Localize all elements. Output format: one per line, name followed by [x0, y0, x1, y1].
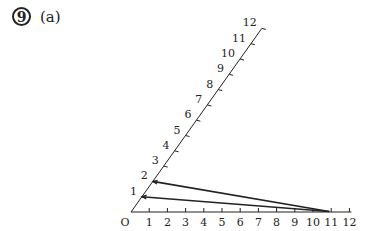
- horizontal-tick-label: 1: [146, 216, 153, 229]
- horizontal-tick-label: 2: [164, 216, 171, 229]
- slanted-tick-mark: [229, 74, 233, 75]
- slanted-tick-label: 2: [141, 169, 148, 182]
- slanted-tick-label: 9: [217, 62, 224, 75]
- joining-line: [142, 197, 329, 212]
- horizontal-tick-label: 7: [255, 216, 262, 229]
- horizontal-tick-label: 12: [342, 216, 356, 229]
- origin-label: O: [120, 216, 129, 229]
- line-division-diagram: 123456789101112O123456789101112: [0, 0, 367, 231]
- horizontal-tick-label: 3: [182, 216, 189, 229]
- horizontal-tick-label: 4: [200, 216, 207, 229]
- slanted-tick-label: 12: [243, 16, 257, 29]
- slanted-tick-mark: [164, 166, 168, 167]
- slanted-tick-label: 1: [130, 185, 137, 198]
- horizontal-tick-label: 8: [273, 216, 280, 229]
- slanted-tick-label: 4: [163, 139, 170, 152]
- slanted-tick-mark: [262, 28, 266, 29]
- slanted-tick-label: 6: [184, 108, 191, 121]
- slanted-tick-label: 11: [232, 32, 246, 45]
- horizontal-tick-label: 11: [324, 216, 338, 229]
- joining-line: [153, 181, 329, 211]
- slanted-tick-mark: [186, 136, 190, 137]
- slanted-tick-mark: [240, 59, 244, 60]
- slanted-tick-mark: [251, 44, 255, 45]
- slanted-tick-label: 7: [195, 93, 202, 106]
- horizontal-tick-label: 10: [306, 216, 320, 229]
- slanted-tick-mark: [218, 90, 222, 91]
- slanted-tick-label: 5: [174, 124, 181, 137]
- horizontal-tick-label: 5: [219, 216, 226, 229]
- slanted-tick-label: 3: [152, 154, 159, 167]
- slanted-tick-mark: [196, 120, 200, 121]
- slanted-tick-label: 8: [206, 78, 213, 91]
- horizontal-tick-label: 9: [291, 216, 298, 229]
- slanted-tick-label: 10: [221, 47, 235, 60]
- slanted-tick-mark: [207, 105, 211, 106]
- horizontal-tick-label: 6: [237, 216, 244, 229]
- slanted-tick-mark: [175, 151, 179, 152]
